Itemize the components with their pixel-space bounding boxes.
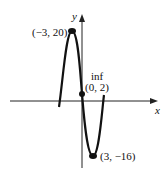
y-axis-arrow-icon: [79, 14, 85, 22]
min-label: (3, −16): [100, 151, 136, 162]
max-point: [68, 28, 76, 34]
cubic-graph: [0, 0, 167, 184]
max-label: (−3, 20): [32, 27, 68, 38]
y-axis-label: y: [72, 11, 77, 22]
min-point: [89, 153, 97, 159]
x-axis-label: x: [155, 105, 160, 116]
inflection-point-label: (0, 2): [85, 82, 109, 93]
